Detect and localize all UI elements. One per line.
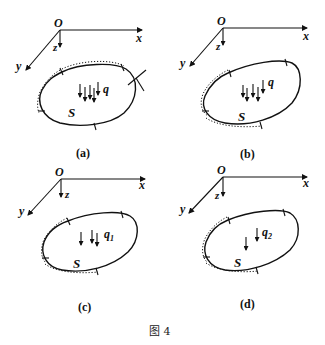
y-axis-label: y [17,204,25,218]
origin-label: O [217,14,226,28]
panel-d: O x z y q2 S (d) [178,163,309,311]
x-axis-label: x [138,178,145,192]
coordinate-axes: O x z y [14,16,142,73]
panel-a: O x z y q S (a) [14,16,146,160]
x-axis-label: x [302,176,309,190]
panel-c: O x z y q1 S (c) [17,165,145,314]
coordinate-axes: O x z y [17,165,145,218]
x-axis-label: x [135,31,142,45]
panel-b: O x z y q S (b) [178,14,309,161]
panel-caption: (d) [240,297,255,311]
origin-label: O [55,165,64,179]
panel-caption: (c) [78,300,91,314]
load-label: q [268,75,274,89]
figure-caption: 图 4 [149,325,171,338]
load-label: q1 [104,227,114,243]
boundary-tick [96,268,98,275]
z-axis-label: z [215,40,221,52]
figure-4-diagram: O x z y q S (a) [0,0,325,345]
panel-caption: (a) [76,146,90,160]
region-boundary [38,61,146,130]
region-label: S [238,109,245,124]
region-label: S [73,256,80,271]
distributed-load-arrows [246,228,257,250]
y-axis [28,179,61,215]
origin-label: O [217,163,226,177]
panel-caption: (b) [240,147,255,161]
y-axis-label: y [178,202,186,216]
z-axis-label: z [64,188,70,200]
region-boundary [203,209,299,274]
boundary-tick [285,59,287,66]
region-boundary [42,211,138,275]
distributed-load-arrows [243,80,263,101]
boundary-curve [204,61,301,124]
distributed-load-arrows [81,230,97,246]
boundary-curve [43,213,137,272]
y-axis-label: y [14,59,22,73]
load-label: q2 [262,225,272,241]
boundary-tick [260,122,262,129]
x-axis-label: x [302,29,309,43]
region-boundary [201,59,300,129]
y-axis-label: y [178,56,186,70]
z-axis-label: z [214,189,220,201]
origin-label: O [54,16,63,30]
boundary-curve [205,211,298,271]
cut-line [136,78,144,91]
boundary-tick [121,211,123,218]
coordinate-axes: O x z y [178,163,309,216]
distributed-load-arrows [80,82,98,102]
z-axis-label: z [52,41,58,53]
region-label: S [68,105,75,120]
boundary-tick [283,209,285,216]
region-label: S [234,255,241,270]
load-label: q [103,82,109,96]
